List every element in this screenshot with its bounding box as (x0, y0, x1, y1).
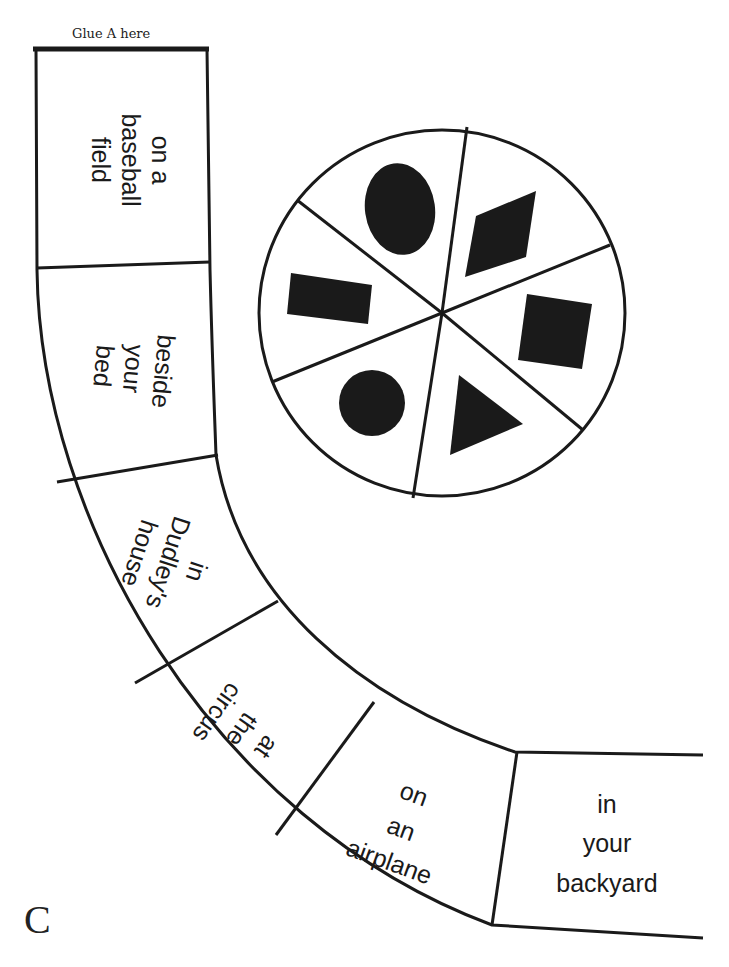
path-space-3: in Dudley's house (112, 504, 225, 622)
svg-text:in: in (597, 790, 616, 818)
svg-text:an: an (384, 810, 420, 846)
svg-text:your: your (583, 829, 632, 857)
svg-text:backyard: backyard (556, 869, 657, 897)
path-space-4: at the circus (188, 678, 298, 782)
path-space-5: on an airplane (343, 765, 461, 889)
svg-text:field: field (87, 137, 115, 183)
svg-text:in: in (181, 558, 214, 585)
svg-text:bed: bed (88, 344, 120, 388)
spinner[interactable] (259, 127, 625, 498)
game-board: on a baseball field beside your bed in D… (0, 0, 729, 967)
svg-text:on: on (396, 776, 432, 812)
svg-text:your: your (118, 343, 150, 394)
svg-text:airplane: airplane (343, 833, 436, 890)
svg-text:on a: on a (147, 136, 175, 185)
page-letter: C (24, 896, 51, 943)
path-space-2: beside your bed (87, 328, 181, 409)
path-space-1: on a baseball field (87, 113, 175, 206)
svg-text:beside: beside (147, 333, 181, 409)
square-shape-icon (518, 294, 592, 369)
svg-text:baseball: baseball (117, 113, 145, 206)
path-space-6: in your backyard (556, 790, 657, 897)
circle-shape-icon (339, 370, 405, 436)
